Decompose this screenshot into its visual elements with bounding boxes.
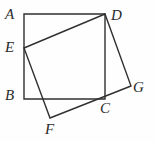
- vertex-label-e: E: [5, 40, 14, 55]
- geometry-canvas: [0, 0, 155, 142]
- shape-layer: [24, 14, 131, 118]
- vertex-label-d: D: [111, 8, 122, 23]
- vertex-label-f: F: [45, 122, 54, 137]
- geometry-figure: ADEBGCF: [0, 0, 155, 142]
- vertex-label-a: A: [5, 7, 14, 22]
- vertex-label-g: G: [133, 80, 144, 95]
- vertex-label-b: B: [5, 88, 14, 103]
- square-abcd: [24, 14, 105, 99]
- quadrilateral-edgf: [24, 14, 131, 118]
- vertex-label-c: C: [100, 101, 110, 116]
